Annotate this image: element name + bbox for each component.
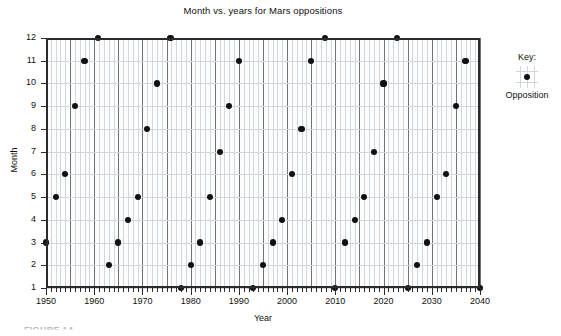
gridline-minor-vertical [253,38,254,288]
gridline-minor-vertical [268,38,269,288]
gridline-major-vertical [94,38,95,288]
x-axis-tick-major [239,288,240,295]
x-axis-tick-minor [374,288,375,292]
legend-dot-icon [524,74,530,80]
x-axis-tick-minor [147,288,148,292]
gridline-minor-vertical [292,38,293,288]
x-axis-tick-minor [210,288,211,292]
gridline-horizontal [46,220,480,221]
y-axis-tick [41,106,46,107]
x-axis-tick-minor [195,288,196,292]
y-axis-title: Month [9,130,19,190]
data-point [72,103,78,109]
gridline-minor-vertical [369,38,370,288]
data-point [226,103,232,109]
gridline-major-vertical [408,38,409,288]
gridline-minor-vertical [205,38,206,288]
x-axis-tick-minor [398,288,399,292]
x-axis-tick-minor [297,288,298,292]
gridline-minor-vertical [316,38,317,288]
x-axis-tick-label: 2010 [315,296,355,306]
gridline-minor-vertical [364,38,365,288]
gridline-minor-vertical [302,38,303,288]
data-point [53,194,59,200]
x-axis-tick-minor [379,288,380,292]
x-axis-tick-minor [475,288,476,292]
x-axis-tick-minor [99,288,100,292]
x-axis-tick-minor [186,288,187,292]
gridline-major-vertical [191,38,192,288]
y-axis-tick-label: 5 [12,191,36,201]
gridline-minor-vertical [157,38,158,288]
y-axis-tick [41,61,46,62]
gridline-major-vertical [215,38,216,288]
x-axis-tick-label: 1950 [26,296,66,306]
gridline-minor-vertical [249,38,250,288]
x-axis-tick-minor [176,288,177,292]
x-axis-tick-minor [118,288,119,292]
data-point [197,239,203,245]
gridline-minor-vertical [475,38,476,288]
gridline-minor-vertical [181,38,182,288]
y-axis-tick [41,197,46,198]
data-point [62,171,68,177]
x-axis-tick-major [46,288,47,295]
x-axis-tick-major [94,288,95,295]
major-vertical-gridlines [46,38,480,288]
x-axis-tick-minor [263,288,264,292]
x-axis-tick-minor [388,288,389,292]
x-axis-tick-minor [224,288,225,292]
x-axis-tick-minor [167,288,168,292]
gridline-horizontal [46,129,480,130]
gridline-minor-vertical [417,38,418,288]
gridline-minor-vertical [220,38,221,288]
gridline-minor-vertical [152,38,153,288]
x-axis-tick-minor [128,288,129,292]
x-axis-tick-label: 2020 [364,296,404,306]
gridline-minor-vertical [297,38,298,288]
gridline-minor-vertical [229,38,230,288]
data-point [188,262,194,268]
gridline-minor-vertical [171,38,172,288]
x-axis-tick-minor [340,288,341,292]
gridline-major-vertical [263,38,264,288]
gridline-horizontal [46,197,480,198]
data-point [352,217,358,223]
gridline-minor-vertical [446,38,447,288]
x-axis-tick-minor [157,288,158,292]
x-axis-tick-label: 1970 [122,296,162,306]
y-axis-tick [41,288,46,289]
gridline-minor-vertical [60,38,61,288]
x-axis-tick-minor [393,288,394,292]
y-axis-tick [41,243,46,244]
gridline-minor-vertical [441,38,442,288]
x-axis-tick-major [432,288,433,295]
x-axis-tick-minor [282,288,283,292]
data-point [414,262,420,268]
x-axis-tick-minor [114,288,115,292]
gridline-minor-vertical [461,38,462,288]
x-axis-tick-minor [403,288,404,292]
gridline-major-vertical [359,38,360,288]
legend: Key: Opposition [496,52,558,100]
gridline-horizontal [46,83,480,84]
x-axis-tick-minor [133,288,134,292]
x-axis-tick-minor [273,288,274,292]
gridline-horizontal [46,243,480,244]
data-point [115,239,121,245]
plot-frame-top [46,38,480,40]
x-axis-tick-major [142,288,143,295]
figure-container: Month vs. years for Mars oppositions 195… [0,0,561,336]
y-axis-tick-label: 3 [12,237,36,247]
gridline-horizontal [46,174,480,175]
gridline-minor-vertical [388,38,389,288]
gridline-major-vertical [480,38,481,288]
minor-vertical-gridlines [46,38,480,288]
gridline-major-vertical [456,38,457,288]
x-axis-tick-minor [441,288,442,292]
data-point [81,58,87,64]
gridline-minor-vertical [89,38,90,288]
x-axis-tick-minor [292,288,293,292]
data-point [462,58,468,64]
x-axis-tick-minor [123,288,124,292]
